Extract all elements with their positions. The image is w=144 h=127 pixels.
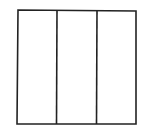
divider-1 [57, 10, 58, 124]
outer-box [17, 10, 136, 124]
divider-2 [97, 11, 98, 124]
three-column-diagram [0, 0, 144, 127]
